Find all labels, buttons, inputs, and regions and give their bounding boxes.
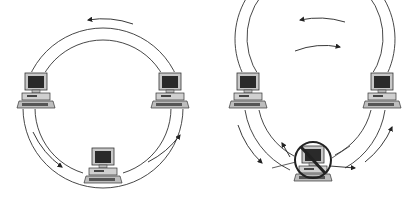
panel-normal-ring xyxy=(16,19,190,188)
arrow-inner-cw xyxy=(295,45,340,51)
arrow-top-ccw xyxy=(88,19,133,24)
computer-icon xyxy=(150,72,190,109)
arrow-wrap-right xyxy=(330,166,355,168)
ring-topology-diagram xyxy=(0,0,412,205)
outer-ring xyxy=(235,0,395,78)
computer-icon xyxy=(83,147,123,184)
panel-failed-ring xyxy=(228,0,402,181)
computer-icon xyxy=(16,72,56,109)
computer-icon xyxy=(362,72,402,109)
arrow-wrap-left xyxy=(282,143,290,157)
failed-computer-icon xyxy=(294,142,332,181)
inner-ring xyxy=(247,0,383,76)
arrow-left-down xyxy=(33,132,62,167)
arrow-top-ccw xyxy=(300,18,345,22)
computer-icon xyxy=(228,72,268,109)
